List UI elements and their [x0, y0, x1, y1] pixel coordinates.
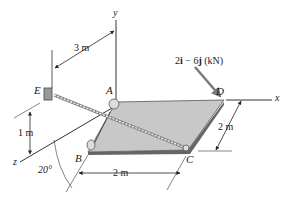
dim-3m-label: 3 m [74, 43, 89, 53]
dim-1m-ref [14, 103, 40, 118]
force-j-coef: − 6 [183, 55, 199, 66]
support-e [44, 88, 52, 100]
point-d-label: D [216, 86, 224, 97]
x-axis-label: x [275, 93, 279, 103]
force-label: 2i − 6j (kN) [175, 56, 223, 66]
dim-1m-label: 1 m [18, 128, 33, 138]
joint-a [109, 99, 119, 109]
point-a-label: A [106, 85, 113, 96]
point-e-label: E [34, 85, 41, 96]
point-b-label: B [75, 153, 82, 164]
angle-label: 20° [38, 165, 52, 175]
z-axis-label: z [13, 157, 17, 167]
dim-2m-cd-label: 2 m [218, 122, 233, 132]
dim-2m-bc-label: 2 m [113, 168, 128, 178]
point-c-label: C [186, 154, 193, 165]
joint-c [183, 145, 189, 151]
joint-b [87, 140, 95, 150]
y-axis-label: y [113, 8, 117, 18]
force-units: (kN) [202, 55, 223, 66]
angle-arc [54, 140, 72, 188]
plate [88, 100, 224, 152]
